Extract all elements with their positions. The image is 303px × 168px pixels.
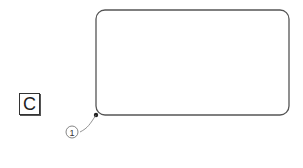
figure-drawing: 1 [0,0,303,168]
rounded-rectangle-outline [96,10,289,115]
patent-figure: 1 C [0,0,303,168]
leader-line [80,115,96,132]
figure-label: C [19,93,40,115]
reference-numeral-1: 1 [69,128,74,138]
